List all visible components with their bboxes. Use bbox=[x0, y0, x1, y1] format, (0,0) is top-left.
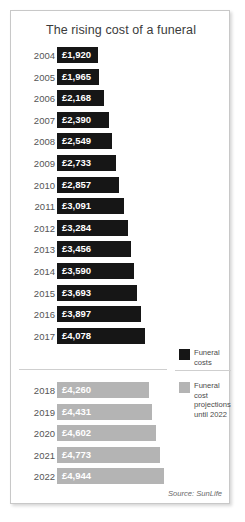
table-row: 2012£3,284 bbox=[11, 220, 231, 237]
cost-bar: £1,965 bbox=[57, 69, 99, 85]
bar-value-label: £2,857 bbox=[62, 177, 91, 193]
bar-value-label: £4,431 bbox=[62, 404, 91, 420]
year-label: 2017 bbox=[17, 330, 55, 343]
table-row: 2010£2,857 bbox=[11, 177, 231, 194]
year-label: 2009 bbox=[17, 157, 55, 170]
bar-value-label: £4,773 bbox=[62, 447, 91, 463]
year-label: 2005 bbox=[17, 71, 55, 84]
year-label: 2013 bbox=[17, 243, 55, 256]
table-row: 2016£3,897 bbox=[11, 306, 231, 323]
table-row: 2005£1,965 bbox=[11, 69, 231, 86]
table-row: 2015£3,693 bbox=[11, 285, 231, 302]
cost-bar: £2,733 bbox=[57, 155, 116, 171]
projection-bar: £4,260 bbox=[57, 382, 149, 398]
legend-label: Funeral costs bbox=[194, 348, 234, 367]
chart-card: The rising cost of a funeral 2004£1,9202… bbox=[10, 10, 230, 504]
projection-bar: £4,944 bbox=[57, 468, 164, 484]
table-row: 2021£4,773 bbox=[11, 447, 231, 464]
bar-value-label: £1,965 bbox=[62, 69, 91, 85]
table-row: 2008£2,549 bbox=[11, 133, 231, 150]
year-label: 2019 bbox=[17, 406, 55, 419]
bar-value-label: £4,944 bbox=[62, 468, 91, 484]
year-label: 2018 bbox=[17, 384, 55, 397]
bar-value-label: £3,590 bbox=[62, 263, 91, 279]
cost-bar: £4,078 bbox=[57, 328, 145, 344]
bar-value-label: £1,920 bbox=[62, 47, 91, 63]
source-note: Source: SunLife bbox=[168, 489, 222, 498]
year-label: 2007 bbox=[17, 114, 55, 127]
cost-bar: £2,390 bbox=[57, 112, 109, 128]
table-row: 2009£2,733 bbox=[11, 155, 231, 172]
table-row: 2011£3,091 bbox=[11, 198, 231, 215]
year-label: 2015 bbox=[17, 287, 55, 300]
bar-value-label: £3,897 bbox=[62, 306, 91, 322]
projection-bar: £4,431 bbox=[57, 404, 152, 420]
bar-value-label: £3,456 bbox=[62, 241, 91, 257]
year-label: 2006 bbox=[17, 92, 55, 105]
year-label: 2004 bbox=[17, 49, 55, 62]
cost-bar: £3,456 bbox=[57, 241, 131, 257]
cost-bar: £3,897 bbox=[57, 306, 141, 322]
year-label: 2012 bbox=[17, 222, 55, 235]
cost-bar: £3,091 bbox=[57, 198, 124, 214]
cost-bar: £2,857 bbox=[57, 177, 119, 193]
cost-bar: £2,168 bbox=[57, 90, 104, 106]
table-row: 2006£2,168 bbox=[11, 90, 231, 107]
year-label: 2008 bbox=[17, 135, 55, 148]
projection-bar: £4,602 bbox=[57, 425, 156, 441]
cost-bar: £3,284 bbox=[57, 220, 128, 236]
chart-title: The rising cost of a funeral bbox=[11, 23, 231, 37]
table-row: 2013£3,456 bbox=[11, 241, 231, 258]
bar-value-label: £3,693 bbox=[62, 285, 91, 301]
table-row: 2007£2,390 bbox=[11, 112, 231, 129]
cost-bar: £2,549 bbox=[57, 133, 112, 149]
cost-bar: £3,590 bbox=[57, 263, 134, 279]
cost-bar: £1,920 bbox=[57, 47, 98, 63]
legend-swatch-icon bbox=[179, 382, 190, 393]
bar-value-label: £3,284 bbox=[62, 220, 91, 236]
table-row: 2020£4,602 bbox=[11, 425, 231, 442]
projection-bar: £4,773 bbox=[57, 447, 160, 463]
year-label: 2010 bbox=[17, 179, 55, 192]
bar-value-label: £4,602 bbox=[62, 425, 91, 441]
table-row: 2022£4,944 bbox=[11, 468, 231, 485]
legend-label: Funeral cost projections until 2022 bbox=[194, 381, 234, 419]
year-label: 2021 bbox=[17, 449, 55, 462]
bar-value-label: £2,168 bbox=[62, 90, 91, 106]
bar-value-label: £4,078 bbox=[62, 328, 91, 344]
table-row: 2004£1,920 bbox=[11, 47, 231, 64]
year-label: 2014 bbox=[17, 265, 55, 278]
bar-value-label: £2,390 bbox=[62, 112, 91, 128]
section-divider bbox=[19, 369, 167, 370]
bar-value-label: £2,733 bbox=[62, 155, 91, 171]
year-label: 2016 bbox=[17, 308, 55, 321]
year-label: 2022 bbox=[17, 470, 55, 483]
legend-divider bbox=[175, 370, 231, 371]
year-label: 2011 bbox=[17, 200, 55, 213]
bar-value-label: £2,549 bbox=[62, 133, 91, 149]
legend-swatch-icon bbox=[179, 349, 190, 360]
cost-bar: £3,693 bbox=[57, 285, 137, 301]
table-row: 2017£4,078 bbox=[11, 328, 231, 345]
year-label: 2020 bbox=[17, 427, 55, 440]
bar-value-label: £3,091 bbox=[62, 198, 91, 214]
bar-value-label: £4,260 bbox=[62, 382, 91, 398]
table-row: 2014£3,590 bbox=[11, 263, 231, 280]
